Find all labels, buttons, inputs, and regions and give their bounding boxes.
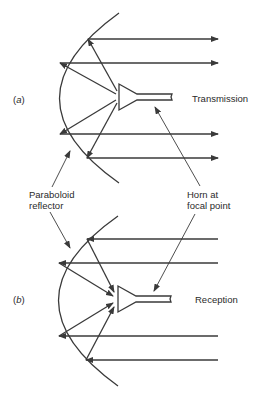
- reflector-leader-a: [52, 151, 70, 187]
- horn-leader-b: [154, 214, 195, 291]
- horn-b: [118, 286, 171, 312]
- transmission-label: Transmission: [192, 93, 248, 104]
- horn-a: [119, 84, 172, 110]
- reflector-label-line1: Paraboloid: [29, 189, 74, 200]
- horn-leader-a: [155, 107, 200, 186]
- reflector-label-line2: reflector: [29, 200, 63, 211]
- horn-label-line2: focal point: [187, 200, 230, 211]
- reflector-leader-b: [50, 212, 70, 248]
- reception-label: Reception: [195, 294, 238, 305]
- panel-b-tag: (b): [13, 294, 25, 305]
- panel-a-tag: (a): [13, 94, 25, 105]
- horn-label-line1: Horn at: [187, 189, 218, 200]
